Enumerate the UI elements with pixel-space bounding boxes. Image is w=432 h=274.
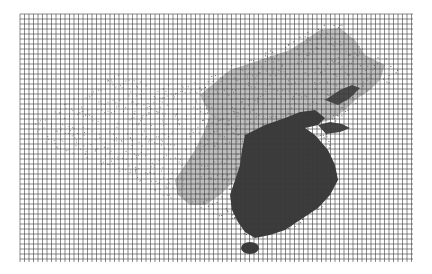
map-container: Dot-density map of China with a square g… <box>0 0 432 274</box>
map-canvas <box>0 0 432 274</box>
